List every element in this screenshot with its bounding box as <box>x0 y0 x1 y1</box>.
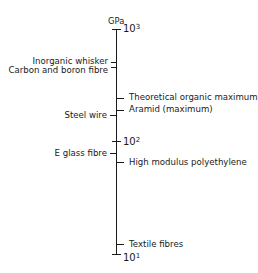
label-carbon-boron-fibre: Carbon and boron fibre <box>8 65 108 75</box>
tick-10 <box>112 254 121 255</box>
tick-100 <box>112 141 121 142</box>
label-textile-fibres: Textile fibres <box>129 239 183 249</box>
decade-label-1000: 103 <box>123 23 140 34</box>
tick-inorganic-whisker <box>111 62 117 63</box>
decade-label-100: 102 <box>123 136 140 147</box>
decade-label-10: 101 <box>123 252 140 263</box>
label-high-modulus-polyethylene: High modulus polyethylene <box>129 157 247 167</box>
tick-aramid-maximum <box>117 110 124 111</box>
tick-steel-wire <box>110 115 117 116</box>
tick-theoretical-organic-maximum <box>117 98 124 99</box>
label-steel-wire: Steel wire <box>64 110 107 120</box>
tick-carbon-boron-fibre <box>111 67 117 68</box>
tick-textile-fibres <box>117 244 124 245</box>
tick-1000 <box>112 29 121 30</box>
tick-high-modulus-polyethylene <box>117 162 124 163</box>
label-theoretical-organic-maximum: Theoretical organic maximum <box>129 92 258 102</box>
label-e-glass-fibre: E glass fibre <box>55 148 107 158</box>
label-aramid-maximum: Aramid (maximum) <box>129 104 213 114</box>
unit-label: GPa <box>108 16 124 26</box>
tick-e-glass-fibre <box>110 153 117 154</box>
